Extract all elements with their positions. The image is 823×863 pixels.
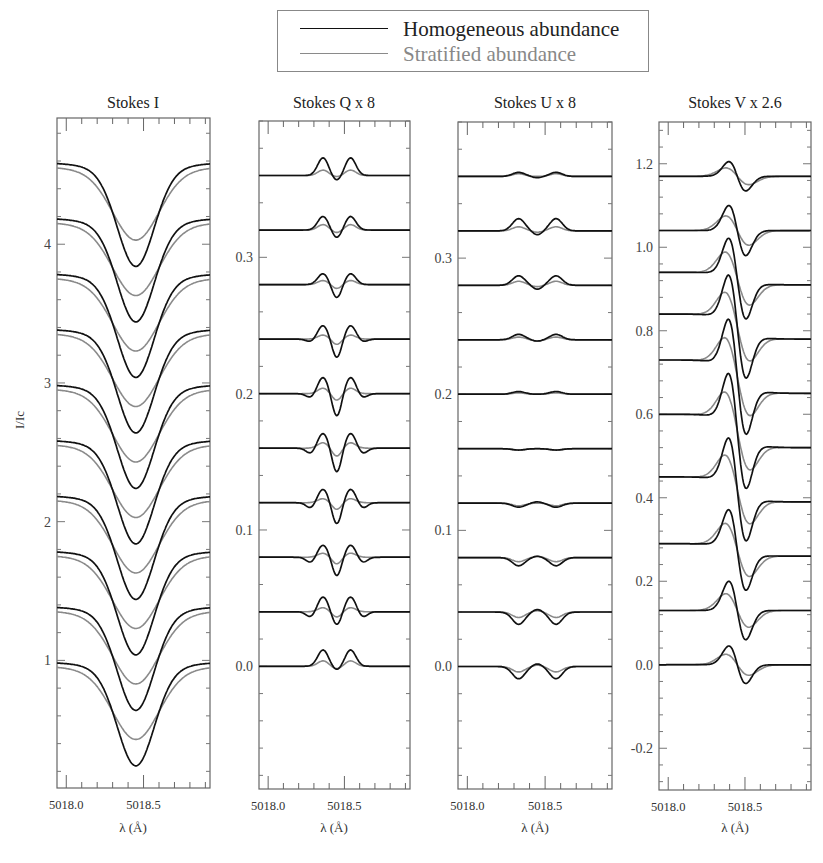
curve-homogeneous [458, 172, 612, 177]
curve-stratified [259, 225, 410, 233]
panel-title-stokes-i: Stokes I [107, 94, 159, 111]
curve-homogeneous [259, 597, 410, 624]
y-tick-label: 0.4 [636, 491, 654, 506]
panel-title-stokes-q: Stokes Q x 8 [293, 94, 375, 111]
y-tick-label: 0.2 [636, 574, 654, 589]
curve-homogeneous [57, 663, 210, 766]
x-tick-label: 5018.5 [126, 798, 160, 812]
panel-stokes-q: Stokes Q x 8 λ (Å) 5018.05018.50.00.10.2… [236, 94, 411, 835]
y-tick-label: 0.2 [236, 387, 254, 402]
curve-homogeneous [57, 386, 210, 489]
curve-homogeneous [57, 608, 210, 711]
y-tick-label: 0.0 [435, 659, 453, 674]
stokes-plots: I/Ic Stokes I λ (Å) 5018.05018.51234 Sto… [0, 0, 823, 863]
y-tick-label: 0.8 [636, 324, 654, 339]
plot-frame [458, 122, 612, 789]
y-tick-label: 2 [44, 515, 51, 530]
curve-stratified [57, 667, 210, 739]
x-axis-label-stokes-i: λ (Å) [119, 820, 147, 835]
y-tick-label: 3 [44, 376, 51, 391]
y-tick-label: 0.1 [236, 523, 254, 538]
curve-homogeneous [259, 274, 410, 298]
panel-stokes-v: Stokes V x 2.6 λ (Å) 5018.05018.5-0.20.0… [631, 94, 811, 835]
curve-homogeneous [57, 497, 210, 600]
y-tick-label: 0.2 [435, 387, 453, 402]
y-tick-label: 0.1 [435, 523, 453, 538]
curve-stratified [259, 499, 410, 510]
x-tick-label: 5018.5 [728, 800, 762, 814]
x-axis-label-stokes-u: λ (Å) [521, 820, 549, 835]
curve-homogeneous [458, 449, 612, 450]
y-axis-label: I/Ic [12, 411, 27, 429]
curve-homogeneous [259, 326, 410, 357]
curve-homogeneous [57, 441, 210, 544]
curve-homogeneous [57, 164, 210, 267]
y-tick-label: 0.6 [636, 407, 654, 422]
panel-title-stokes-u: Stokes U x 8 [494, 94, 576, 111]
panel-stokes-u: Stokes U x 8 λ (Å) 5018.05018.50.00.10.2… [435, 94, 613, 835]
curve-homogeneous [458, 502, 612, 507]
x-tick-label: 5018.5 [327, 799, 361, 813]
panel-stokes-i: Stokes I λ (Å) 5018.05018.51234 [44, 94, 210, 835]
x-axis-label-stokes-v: λ (Å) [721, 820, 749, 835]
curve-stratified [259, 443, 410, 456]
x-tick-label: 5018.0 [251, 799, 285, 813]
curve-homogeneous [259, 490, 410, 524]
curve-homogeneous [659, 510, 811, 591]
curve-homogeneous [57, 275, 210, 378]
curve-homogeneous [659, 646, 811, 684]
y-tick-label: -0.2 [631, 741, 653, 756]
x-tick-label: 5018.0 [651, 800, 685, 814]
x-tick-label: 5018.5 [528, 799, 562, 813]
y-tick-label: 0.0 [236, 659, 254, 674]
y-tick-label: 4 [44, 237, 51, 252]
x-tick-label: 5018.0 [49, 798, 83, 812]
curve-homogeneous [659, 581, 811, 639]
curve-homogeneous [458, 334, 612, 341]
curve-homogeneous [659, 162, 811, 191]
curve-homogeneous [659, 438, 811, 541]
curve-homogeneous [259, 378, 410, 416]
curve-stratified [259, 553, 410, 564]
curve-homogeneous [259, 545, 410, 575]
x-axis-label-stokes-q: λ (Å) [320, 820, 348, 835]
curve-homogeneous [659, 206, 811, 256]
y-tick-label: 0.3 [236, 250, 254, 265]
curve-homogeneous [259, 434, 410, 472]
y-tick-label: 0.0 [636, 658, 654, 673]
y-tick-label: 1 [44, 653, 51, 668]
curve-homogeneous [259, 650, 410, 669]
y-tick-label: 0.3 [435, 251, 453, 266]
y-tick-label: 1.2 [636, 157, 654, 172]
y-tick-label: 1.0 [636, 240, 654, 255]
panel-title-stokes-v: Stokes V x 2.6 [688, 94, 782, 111]
curve-homogeneous [57, 219, 210, 322]
curve-homogeneous [57, 330, 210, 433]
x-tick-label: 5018.0 [450, 799, 484, 813]
curve-homogeneous [458, 392, 612, 395]
curve-homogeneous [57, 552, 210, 655]
curve-homogeneous [259, 217, 410, 238]
curve-homogeneous [458, 556, 612, 565]
